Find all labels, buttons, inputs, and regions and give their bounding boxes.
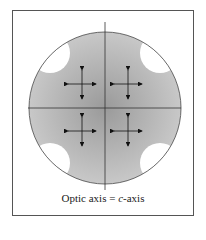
isogyre-gap-tr [140,33,180,73]
isogyre-gap-bl [30,143,70,183]
caption: Optic axis = c-axis [0,192,206,204]
isogyre-gap-tl [30,33,70,73]
caption-prefix: Optic axis = [62,192,119,204]
caption-suffix: -axis [123,192,144,204]
isogyre-gap-br [140,143,180,183]
